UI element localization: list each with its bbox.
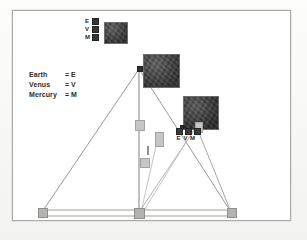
key-swatch-earth-right-icon bbox=[176, 128, 183, 135]
legend-name-earth: Earth bbox=[29, 70, 63, 80]
photo-patch-top-left bbox=[104, 22, 128, 44]
photo-patch-apex bbox=[143, 54, 180, 88]
key-letter-venus: V bbox=[85, 26, 92, 33]
key-swatch-venus-right-icon bbox=[185, 128, 192, 135]
marker-baseline-left bbox=[38, 208, 48, 218]
key-swatch-mercury-icon bbox=[92, 34, 99, 41]
key-letter-row: E V M bbox=[176, 135, 201, 142]
marker-baseline-center bbox=[134, 208, 145, 219]
key-letter-venus-right: V bbox=[183, 135, 188, 142]
key-row-earth: E bbox=[85, 18, 99, 25]
legend-equals-venus: = bbox=[63, 80, 71, 90]
legend-symbol-earth: E bbox=[71, 70, 76, 80]
key-swatch-mercury-right-icon bbox=[194, 128, 201, 135]
figure-page: Earth = E Venus = V Mercury = M E V M bbox=[0, 0, 307, 240]
marker-sliver bbox=[147, 146, 149, 155]
legend-symbol-venus: V bbox=[71, 80, 76, 90]
key-swatch-row bbox=[176, 128, 201, 135]
key-letter-mercury-right: M bbox=[190, 135, 195, 142]
marker-mid-right-node bbox=[155, 132, 164, 147]
key-letter-earth: E bbox=[85, 18, 92, 25]
key-row-mercury: M bbox=[85, 34, 99, 41]
key-cluster-top-left: E V M bbox=[85, 18, 99, 42]
legend-equals-mercury: = bbox=[63, 90, 71, 100]
legend-name-venus: Venus bbox=[29, 80, 63, 90]
key-row-venus: V bbox=[85, 26, 99, 33]
legend-row-mercury: Mercury = M bbox=[29, 90, 77, 100]
key-swatch-venus-icon bbox=[92, 26, 99, 33]
marker-apex-node bbox=[137, 66, 143, 72]
marker-mid-lower-node bbox=[140, 158, 150, 168]
key-letter-earth-right: E bbox=[176, 135, 181, 142]
key-letter-mercury: M bbox=[85, 34, 92, 41]
legend-row-earth: Earth = E bbox=[29, 70, 77, 80]
legend-name-mercury: Mercury bbox=[29, 90, 63, 100]
key-swatch-earth-icon bbox=[92, 18, 99, 25]
legend-equals-earth: = bbox=[63, 70, 71, 80]
marker-baseline-right bbox=[227, 208, 237, 218]
planet-legend: Earth = E Venus = V Mercury = M bbox=[29, 70, 77, 100]
key-cluster-right: E V M bbox=[176, 128, 201, 142]
figure-frame-border bbox=[12, 10, 291, 221]
legend-symbol-mercury: M bbox=[71, 90, 77, 100]
marker-mid-vertical-node bbox=[135, 120, 145, 131]
legend-row-venus: Venus = V bbox=[29, 80, 77, 90]
